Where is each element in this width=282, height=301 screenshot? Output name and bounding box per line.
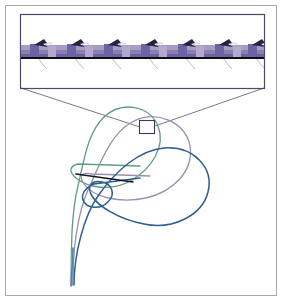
figure-root: Supercoiled filament plectoneme with mag…	[0, 0, 282, 301]
filament-tail	[70, 248, 74, 286]
configuration-blue-curve	[74, 148, 209, 285]
configuration-mauve-curve	[73, 117, 191, 285]
magnified-segment-inset	[21, 15, 267, 89]
figure-canvas	[0, 0, 282, 301]
zoom-region-marker[interactable]	[140, 121, 155, 134]
leader-line-right	[152, 88, 264, 127]
